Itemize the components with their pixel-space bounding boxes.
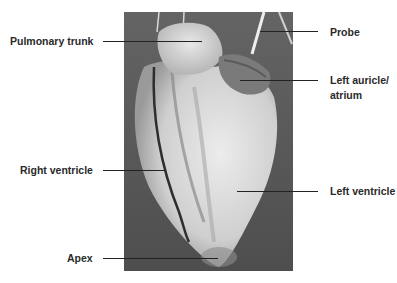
leader-pulmonary-trunk [103,41,202,42]
label-left-auricle: Left auricle/ [330,73,389,87]
label-pulmonary-trunk: Pulmonary trunk [10,34,93,48]
leader-apex [103,258,218,259]
label-left-atrium: atrium [330,88,362,102]
leader-left-auricle [240,80,318,81]
label-probe: Probe [330,25,360,39]
label-apex: Apex [67,251,93,265]
leader-left-ventricle [237,191,318,192]
leader-right-ventricle [103,170,165,171]
label-left-ventricle: Left ventricle [330,184,395,198]
label-right-ventricle: Right ventricle [20,163,93,177]
leader-probe [260,31,318,32]
heart-photo [124,12,293,271]
heart-illustration [124,12,293,271]
